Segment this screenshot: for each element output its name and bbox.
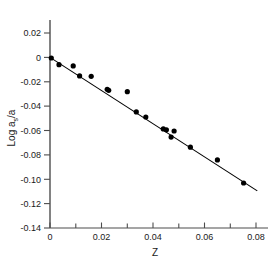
y-tick-label: -0.10 xyxy=(20,175,41,185)
x-tick-label: 0.08 xyxy=(247,232,265,242)
chart-figure: 0.02 0 -0.02 -0.04 -0.06 -0.08 -0.10 -0.… xyxy=(0,0,275,267)
y-tick-label: -0.14 xyxy=(20,223,41,233)
y-tick-label: -0.04 xyxy=(20,101,41,111)
y-tick-label: 0 xyxy=(36,53,41,63)
scatter-plot: 0.02 0 -0.02 -0.04 -0.06 -0.08 -0.10 -0.… xyxy=(0,0,275,267)
data-point xyxy=(164,127,169,132)
y-tick-label: -0.02 xyxy=(20,77,41,87)
data-point xyxy=(71,63,76,68)
x-axis-title: Z xyxy=(152,247,158,258)
data-point xyxy=(172,128,177,133)
data-point xyxy=(106,88,111,93)
y-axis-title: Log as/a xyxy=(6,109,19,146)
data-point xyxy=(49,55,54,60)
data-point xyxy=(241,180,246,185)
y-axis-title-suffix: /a xyxy=(6,109,17,118)
y-axis-title-prefix: Log a xyxy=(6,121,17,146)
x-tick-label: 0.04 xyxy=(144,232,162,242)
data-point xyxy=(169,135,174,140)
data-point xyxy=(77,73,82,78)
y-tick-label: -0.08 xyxy=(20,150,41,160)
data-point xyxy=(125,89,130,94)
data-point xyxy=(215,157,220,162)
x-tick-label: 0.02 xyxy=(93,232,111,242)
data-point xyxy=(143,114,148,119)
svg-text:Log as/a: Log as/a xyxy=(6,109,19,146)
plot-background xyxy=(0,0,275,267)
x-tick-label: 0 xyxy=(47,232,52,242)
data-point xyxy=(56,62,61,67)
y-tick-label: 0.02 xyxy=(23,28,41,38)
x-tick-label: 0.06 xyxy=(196,232,214,242)
y-tick-label: -0.06 xyxy=(20,126,41,136)
data-point xyxy=(89,74,94,79)
data-point xyxy=(134,109,139,114)
y-tick-label: -0.12 xyxy=(20,199,41,209)
data-point xyxy=(188,145,193,150)
